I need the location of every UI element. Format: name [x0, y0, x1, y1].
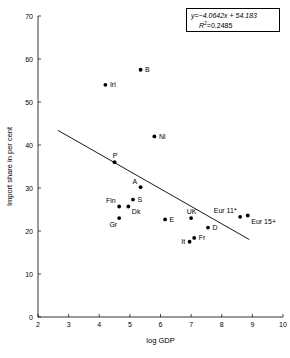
x-tick-label: 8 [220, 321, 224, 328]
data-point [103, 83, 107, 87]
axes: 0102030405060702345678910 [25, 13, 287, 329]
x-tick-label: 9 [250, 321, 254, 328]
data-point [139, 185, 143, 189]
regression-line [58, 130, 249, 239]
data-point [126, 205, 130, 209]
x-tick-label: 5 [128, 321, 132, 328]
data-point-label: Eur 15+ [251, 218, 276, 225]
data-points: BIrlNlPASFinDkGrEUKDItFrEur 11*Eur 15+ [103, 66, 276, 245]
x-tick-label: 6 [159, 321, 163, 328]
x-axis-title: log GDP [146, 336, 174, 345]
data-point-label: E [170, 216, 175, 223]
y-tick-label: 20 [25, 228, 33, 235]
data-point [189, 216, 193, 220]
data-point [117, 205, 121, 209]
y-tick-label: 70 [25, 13, 33, 20]
data-point-label: P [113, 152, 118, 159]
data-point [188, 240, 192, 244]
data-point-label: S [137, 196, 142, 203]
x-tick-label: 3 [67, 321, 71, 328]
data-point-label: Gr [109, 221, 117, 228]
y-axis-title: Import share in per cent [5, 126, 14, 206]
data-point-label: Irl [110, 81, 116, 88]
y-tick-label: 50 [25, 99, 33, 106]
data-point [246, 214, 250, 218]
data-point [206, 226, 210, 230]
r-squared-value: =0.2485 [207, 22, 233, 29]
data-point-label: It [181, 238, 185, 245]
scatter-chart: 0102030405060702345678910 BIrlNlPASFinDk… [0, 0, 290, 358]
y-tick-label: 0 [29, 314, 33, 321]
data-point-label: B [145, 66, 150, 73]
x-tick-label: 2 [36, 321, 40, 328]
r-squared-line: R2=0.2485 [191, 21, 276, 31]
y-tick-label: 60 [25, 56, 33, 63]
y-tick-label: 30 [25, 185, 33, 192]
plot-area: 0102030405060702345678910 BIrlNlPASFinDk… [0, 0, 290, 358]
data-point [238, 215, 242, 219]
data-point-label: D [212, 224, 217, 231]
equation-body: =−4.0642x + 54.183 [195, 12, 257, 19]
data-point-label: Eur 11* [214, 207, 237, 214]
data-point-label: UK [187, 208, 197, 215]
data-point [113, 160, 117, 164]
x-tick-label: 4 [97, 321, 101, 328]
y-tick-label: 10 [25, 271, 33, 278]
x-tick-label: 10 [279, 321, 287, 328]
data-point [163, 217, 167, 221]
data-point-label: A [132, 178, 137, 185]
data-point [139, 68, 143, 72]
data-point [117, 216, 121, 220]
y-tick-label: 40 [25, 142, 33, 149]
data-point-label: Fr [199, 234, 206, 241]
equation-annotation-box: y=−4.0642x + 54.183 R2=0.2485 [186, 8, 280, 32]
data-point [131, 198, 135, 202]
data-point-label: Nl [159, 133, 166, 140]
data-point-label: Fin [106, 197, 116, 204]
axis-titles: log GDPImport share in per cent [5, 126, 175, 345]
data-point [192, 236, 196, 240]
data-point [152, 135, 156, 139]
data-point-label: Dk [132, 208, 141, 215]
x-tick-label: 7 [189, 321, 193, 328]
